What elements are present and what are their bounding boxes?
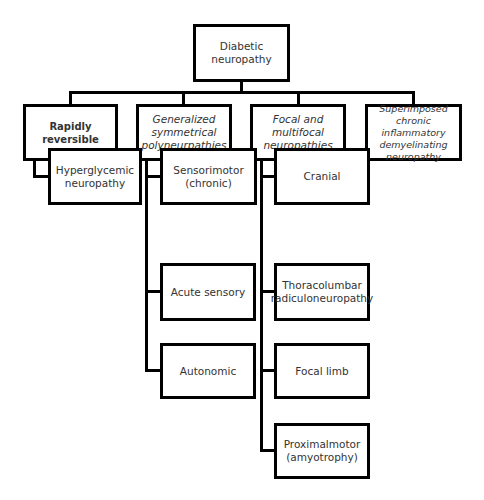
node-label: Generalized symmetrical polyneurpathies bbox=[141, 113, 226, 152]
node-label: Diabetic neuropathy bbox=[199, 40, 284, 66]
drop-rapidly-reversible bbox=[69, 91, 72, 105]
node-label: Autonomic bbox=[180, 365, 236, 378]
node-label: Rapidly reversible bbox=[29, 120, 112, 146]
node-label: Superimposed chronic inflammatory demyel… bbox=[370, 103, 457, 163]
tick-acute-sensory bbox=[145, 290, 161, 293]
node-sensorimotor-chronic: Sensorimotor (chronic) bbox=[160, 148, 257, 205]
node-proximalmotor-amyotrophy: Proximalmotor (amyotrophy) bbox=[274, 423, 370, 479]
generalized-spine bbox=[145, 159, 148, 372]
node-label: Cranial bbox=[303, 170, 340, 183]
node-label: Thoracolumbar radiculoneuropathy bbox=[271, 279, 373, 305]
node-label: Focal and multifocal neuropathies bbox=[256, 113, 340, 152]
tick-focal-limb bbox=[260, 369, 275, 372]
node-acute-sensory: Acute sensory bbox=[160, 263, 256, 321]
tick-proximalmotor bbox=[260, 449, 275, 452]
tick-autonomic bbox=[145, 369, 161, 372]
node-superimposed-cidp: Superimposed chronic inflammatory demyel… bbox=[365, 104, 462, 161]
node-autonomic: Autonomic bbox=[160, 343, 256, 399]
node-label: Acute sensory bbox=[171, 286, 245, 299]
node-label: Proximalmotor (amyotrophy) bbox=[280, 438, 364, 464]
focal-spine bbox=[260, 159, 263, 452]
node-label: Focal limb bbox=[295, 365, 348, 378]
node-focal-limb: Focal limb bbox=[274, 343, 370, 399]
node-cranial: Cranial bbox=[274, 148, 370, 205]
node-diabetic-neuropathy: Diabetic neuropathy bbox=[193, 24, 290, 82]
tick-cranial bbox=[260, 175, 275, 178]
node-label: Sensorimotor (chronic) bbox=[166, 164, 251, 190]
drop-focal bbox=[297, 91, 300, 105]
node-label: Hyperglycemic neuropathy bbox=[54, 164, 136, 190]
node-thoracolumbar-radiculoneuropathy: Thoracolumbar radiculoneuropathy bbox=[274, 263, 370, 321]
rapid-tick-hyperglycemic bbox=[33, 175, 49, 178]
diabetic-neuropathy-diagram: Diabetic neuropathy Rapidly reversible G… bbox=[0, 0, 484, 500]
level1-bus bbox=[69, 91, 415, 94]
drop-generalized bbox=[182, 91, 185, 105]
node-hyperglycemic-neuropathy: Hyperglycemic neuropathy bbox=[48, 148, 142, 205]
tick-sensorimotor bbox=[145, 175, 161, 178]
